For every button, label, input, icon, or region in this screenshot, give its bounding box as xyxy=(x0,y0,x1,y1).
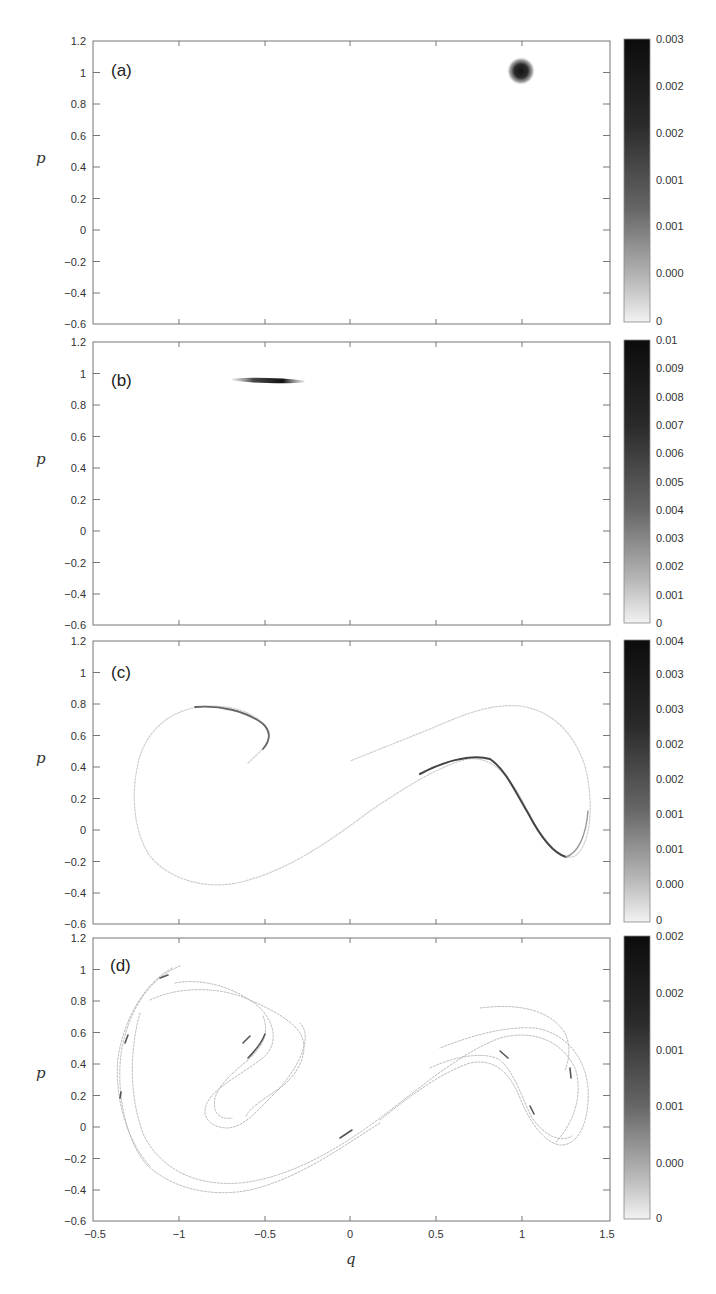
svg-text:0.009: 0.009 xyxy=(656,362,684,374)
svg-text:0: 0 xyxy=(80,525,86,537)
y-tick-labels: 1.2 1 0.8 0.6 0.4 0.2 0 −0.2 −0.4 −0.6 xyxy=(64,635,86,930)
svg-text:−0.5: −0.5 xyxy=(254,1228,276,1240)
svg-text:−1: −1 xyxy=(173,1228,186,1240)
density-streak xyxy=(231,377,305,384)
panel-label: (b) xyxy=(111,371,132,390)
svg-text:0.6: 0.6 xyxy=(71,431,86,443)
y-axis-label: p xyxy=(36,1064,46,1082)
svg-text:−0.2: −0.2 xyxy=(64,1153,86,1165)
plot-frame xyxy=(93,342,610,625)
svg-text:1: 1 xyxy=(80,964,86,976)
svg-text:0.6: 0.6 xyxy=(71,130,86,142)
y-tick-labels: 1.2 1 0.8 0.6 0.4 0.2 0 −0.2 −0.4 −0.6 xyxy=(64,336,86,631)
y-ticks xyxy=(93,673,610,894)
plot-frame xyxy=(93,641,610,924)
svg-text:0.2: 0.2 xyxy=(71,1090,86,1102)
y-ticks xyxy=(93,374,610,595)
colorbar: 0.002 0.002 0.001 0.001 0.000 0 xyxy=(624,930,684,1224)
svg-text:0.003: 0.003 xyxy=(656,33,684,45)
svg-text:0.001: 0.001 xyxy=(656,1100,684,1112)
svg-text:0.008: 0.008 xyxy=(656,391,684,403)
svg-text:0.003: 0.003 xyxy=(656,703,684,715)
svg-text:1.2: 1.2 xyxy=(71,336,86,348)
colorbar: 0.01 0.009 0.008 0.007 0.006 0.005 0.004… xyxy=(624,334,684,629)
svg-text:0: 0 xyxy=(80,1121,86,1133)
svg-text:0.002: 0.002 xyxy=(656,127,684,139)
svg-text:−0.4: −0.4 xyxy=(64,588,86,600)
colorbar: 0.003 0.002 0.002 0.001 0.001 0.000 0 xyxy=(624,33,684,327)
svg-text:0.2: 0.2 xyxy=(71,793,86,805)
svg-text:1: 1 xyxy=(519,1228,525,1240)
x-ticks xyxy=(179,41,522,324)
panel-label: (a) xyxy=(111,61,132,80)
svg-text:0.002: 0.002 xyxy=(656,738,684,750)
x-ticks xyxy=(179,641,522,924)
svg-text:1: 1 xyxy=(80,67,86,79)
svg-text:0.002: 0.002 xyxy=(656,773,684,785)
svg-text:−0.4: −0.4 xyxy=(64,1184,86,1196)
svg-text:0.001: 0.001 xyxy=(656,589,684,601)
y-ticks xyxy=(93,970,610,1191)
svg-text:0.002: 0.002 xyxy=(656,987,684,999)
density-blob xyxy=(507,57,535,85)
x-ticks xyxy=(179,342,522,625)
svg-text:0.6: 0.6 xyxy=(71,730,86,742)
svg-text:0: 0 xyxy=(80,824,86,836)
plot-frame xyxy=(93,938,610,1221)
svg-text:−0.2: −0.2 xyxy=(64,557,86,569)
svg-text:0.01: 0.01 xyxy=(656,334,677,346)
svg-text:1.2: 1.2 xyxy=(71,635,86,647)
svg-text:0.001: 0.001 xyxy=(656,220,684,232)
panel-label: (d) xyxy=(110,956,131,975)
svg-text:−0.2: −0.2 xyxy=(64,256,86,268)
svg-text:−0.6: −0.6 xyxy=(64,918,86,930)
svg-text:−0.6: −0.6 xyxy=(64,619,86,631)
svg-text:0.001: 0.001 xyxy=(656,843,684,855)
panel-b: 1.2 1 0.8 0.6 0.4 0.2 0 −0.2 −0.4 −0.6 p… xyxy=(36,334,684,631)
filaments xyxy=(117,966,588,1193)
y-axis-label: p xyxy=(36,450,46,468)
x-tick-labels: −0.5 −1 −0.5 0 0.5 1 1.5 xyxy=(84,1228,615,1240)
filament xyxy=(134,706,590,885)
svg-text:0.007: 0.007 xyxy=(656,419,684,431)
svg-text:0.004: 0.004 xyxy=(656,504,684,516)
svg-text:0: 0 xyxy=(656,315,662,327)
svg-text:0.2: 0.2 xyxy=(71,494,86,506)
svg-text:0.6: 0.6 xyxy=(71,1027,86,1039)
svg-text:0.001: 0.001 xyxy=(656,808,684,820)
plot-frame xyxy=(93,41,610,324)
svg-text:0.000: 0.000 xyxy=(656,878,684,890)
svg-text:0.4: 0.4 xyxy=(71,161,86,173)
svg-text:0.8: 0.8 xyxy=(71,399,86,411)
svg-text:−0.6: −0.6 xyxy=(64,1215,86,1227)
svg-text:0.4: 0.4 xyxy=(71,462,86,474)
svg-text:0: 0 xyxy=(347,1228,353,1240)
y-ticks xyxy=(93,73,610,294)
svg-text:−0.5: −0.5 xyxy=(84,1228,106,1240)
y-axis-label: p xyxy=(36,149,46,167)
svg-text:−0.4: −0.4 xyxy=(64,887,86,899)
svg-text:0.001: 0.001 xyxy=(656,1044,684,1056)
svg-text:1.2: 1.2 xyxy=(71,35,86,47)
svg-text:1.2: 1.2 xyxy=(71,932,86,944)
svg-text:0.002: 0.002 xyxy=(656,930,684,942)
y-tick-labels: 1.2 1 0.8 0.6 0.4 0.2 0 −0.2 −0.4 −0.6 xyxy=(64,35,86,330)
colorbar: 0.004 0.003 0.003 0.002 0.002 0.001 0.00… xyxy=(624,635,684,926)
svg-text:0: 0 xyxy=(656,617,662,629)
svg-text:0.000: 0.000 xyxy=(656,267,684,279)
panel-label: (c) xyxy=(111,663,131,682)
svg-text:0.005: 0.005 xyxy=(656,476,684,488)
panel-a: 1.2 1 0.8 0.6 0.4 0.2 0 −0.2 −0.4 −0.6 p… xyxy=(36,33,684,330)
svg-text:1: 1 xyxy=(80,368,86,380)
svg-text:0.001: 0.001 xyxy=(656,174,684,186)
svg-text:1.5: 1.5 xyxy=(599,1228,614,1240)
svg-text:0.8: 0.8 xyxy=(71,98,86,110)
svg-text:0: 0 xyxy=(656,1212,662,1224)
svg-text:0.000: 0.000 xyxy=(656,1157,684,1169)
svg-text:0.4: 0.4 xyxy=(71,1058,86,1070)
svg-text:0.2: 0.2 xyxy=(71,193,86,205)
svg-text:0: 0 xyxy=(80,224,86,236)
panel-d: 1.2 1 0.8 0.6 0.4 0.2 0 −0.2 −0.4 −0.6 p… xyxy=(36,930,684,1227)
svg-text:−0.2: −0.2 xyxy=(64,856,86,868)
svg-text:−0.6: −0.6 xyxy=(64,318,86,330)
